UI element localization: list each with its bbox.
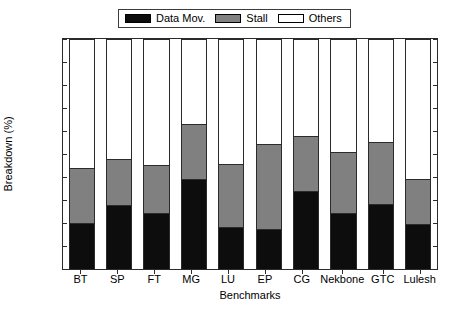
bar-slot xyxy=(138,39,175,269)
x-tick-label: Lulesh xyxy=(403,273,435,285)
x-axis-tick-lu: LU xyxy=(210,270,247,288)
legend-swatch-others xyxy=(278,14,304,23)
x-tick-label: EP xyxy=(258,273,273,285)
legend-swatch-data-mov xyxy=(125,14,151,23)
x-tick-mark xyxy=(154,270,155,274)
x-tick-label: BT xyxy=(73,273,87,285)
chart-legend: Data Mov. Stall Others xyxy=(118,9,351,28)
x-axis-tick-bt: BT xyxy=(62,270,99,288)
x-tick-mark xyxy=(265,270,266,274)
x-tick-label: GTC xyxy=(371,273,394,285)
bar-group xyxy=(63,39,437,269)
bar-segment-data-mov xyxy=(143,213,169,269)
x-tick-mark xyxy=(228,270,229,274)
x-axis-tick-nekbone: Nekbone xyxy=(320,270,364,288)
bar-slot xyxy=(325,39,362,269)
bar-segment-data-mov xyxy=(293,191,319,269)
stacked-bar[interactable] xyxy=(218,39,244,269)
bar-slot xyxy=(175,39,212,269)
bar-segment-data-mov xyxy=(106,205,132,269)
plot-area: 0102030405060708090100 xyxy=(62,38,438,270)
y-axis-label: Breakdown (%) xyxy=(0,38,16,270)
x-axis-tick-mg: MG xyxy=(173,270,210,288)
legend-label-stall: Stall xyxy=(246,13,267,24)
bar-segment-data-mov xyxy=(405,224,431,269)
x-tick-label: CG xyxy=(294,273,311,285)
x-tick-label: FT xyxy=(148,273,161,285)
x-axis-ticks: BTSPFTMGLUEPCGNekboneGTCLulesh xyxy=(62,270,438,288)
x-tick-mark xyxy=(383,270,384,274)
stacked-bar[interactable] xyxy=(330,39,356,269)
bar-segment-data-mov xyxy=(368,204,394,269)
x-tick-label: MG xyxy=(182,273,200,285)
legend-label-data-mov: Data Mov. xyxy=(156,13,205,24)
bar-segment-data-mov xyxy=(330,213,356,269)
bar-slot xyxy=(100,39,137,269)
bar-segment-data-mov xyxy=(69,223,95,269)
x-axis-tick-ep: EP xyxy=(246,270,283,288)
x-axis-tick-cg: CG xyxy=(283,270,320,288)
bar-slot xyxy=(400,39,437,269)
x-tick-mark xyxy=(302,270,303,274)
legend-entry-data-mov: Data Mov. xyxy=(125,13,205,24)
x-axis-tick-ft: FT xyxy=(136,270,173,288)
stacked-bar[interactable] xyxy=(256,39,282,269)
x-tick-mark xyxy=(191,270,192,274)
x-tick-label: LU xyxy=(221,273,235,285)
x-tick-mark xyxy=(80,270,81,274)
x-axis-tick-sp: SP xyxy=(99,270,136,288)
bar-slot xyxy=(250,39,287,269)
bar-slot xyxy=(63,39,100,269)
bar-slot xyxy=(213,39,250,269)
x-axis-tick-gtc: GTC xyxy=(364,270,401,288)
x-tick-label: Nekbone xyxy=(320,273,364,285)
x-axis-tick-lulesh: Lulesh xyxy=(401,270,438,288)
legend-entry-stall: Stall xyxy=(215,13,267,24)
stacked-bar[interactable] xyxy=(106,39,132,269)
bar-segment-data-mov xyxy=(181,179,207,269)
legend-swatch-stall xyxy=(215,14,241,23)
bar-slot xyxy=(362,39,399,269)
bar-segment-data-mov xyxy=(218,227,244,269)
x-tick-mark xyxy=(420,270,421,274)
stacked-bar[interactable] xyxy=(293,39,319,269)
stacked-bar[interactable] xyxy=(143,39,169,269)
x-tick-mark xyxy=(117,270,118,274)
bar-slot xyxy=(287,39,324,269)
x-tick-mark xyxy=(342,270,343,274)
stacked-bar[interactable] xyxy=(405,39,431,269)
stacked-bar-chart-figure: Data Mov. Stall Others Breakdown (%) 010… xyxy=(0,0,458,311)
stacked-bar[interactable] xyxy=(69,39,95,269)
stacked-bar[interactable] xyxy=(181,39,207,269)
x-tick-label: SP xyxy=(110,273,125,285)
stacked-bar[interactable] xyxy=(368,39,394,269)
legend-label-others: Others xyxy=(309,13,342,24)
bar-segment-data-mov xyxy=(256,229,282,269)
legend-entry-others: Others xyxy=(278,13,342,24)
x-axis-label: Benchmarks xyxy=(62,288,438,302)
